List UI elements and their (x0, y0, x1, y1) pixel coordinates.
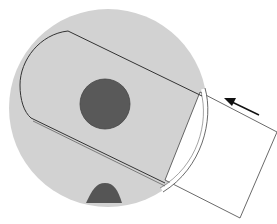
diagram-canvas (0, 0, 277, 224)
hub (80, 79, 130, 129)
